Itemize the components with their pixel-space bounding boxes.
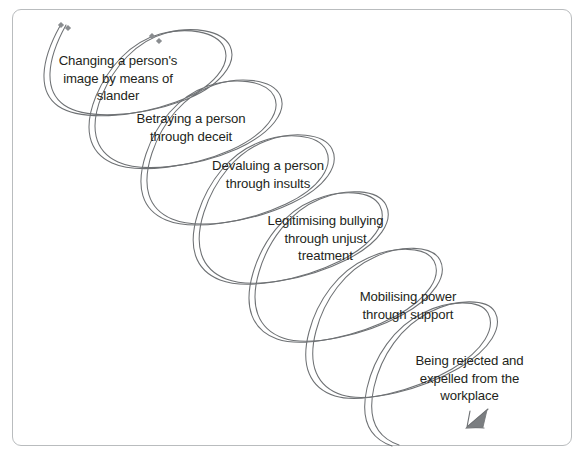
figure-root: Changing a person's image by means of sl… xyxy=(0,0,585,464)
start-marker-outer-right xyxy=(149,33,155,39)
spiral-ribbon-inner-edge xyxy=(50,25,497,445)
figure-caption-fragment xyxy=(14,452,344,462)
spiral-ribbon-outer-edge xyxy=(44,26,490,446)
spiral-graphic xyxy=(0,0,585,464)
start-marker-inner-right xyxy=(156,38,162,44)
